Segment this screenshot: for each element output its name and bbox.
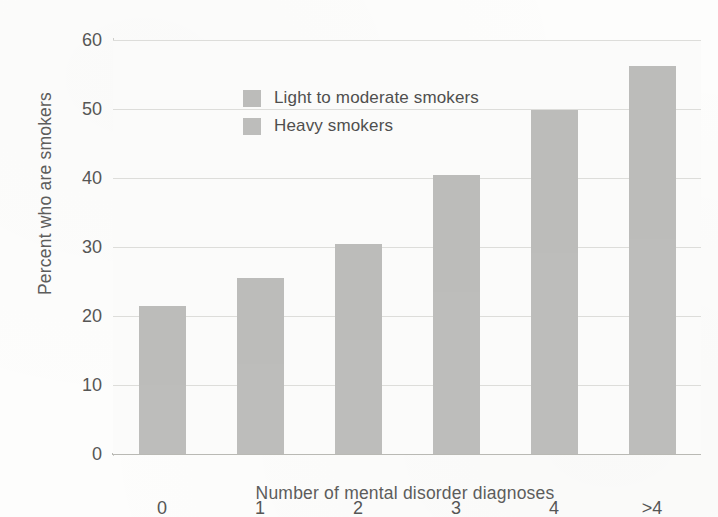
x-axis-tick-label: 2 [353,498,363,517]
bar-segment-heavy-smokers [139,385,186,454]
bar-chart-figure: Percent who are smokers Number of mental… [0,0,718,517]
bar-segment-heavy-smokers [629,239,676,454]
y-axis-tick-label: 30 [82,237,113,258]
legend: Light to moderate smokers Heavy smokers [243,88,479,136]
bar-segment-heavy-smokers [531,253,578,454]
x-axis-tick-label: >4 [642,498,663,517]
bar-stack [433,175,480,454]
x-axis-tick-label: 1 [255,498,265,517]
bar-segment-light-to-moderate-smokers [237,278,284,364]
y-axis-tick-label: 40 [82,168,113,189]
y-axis-tick-label: 60 [82,30,113,51]
y-axis-tick-label: 0 [92,444,113,465]
x-axis-title: Number of mental disorder diagnoses [100,483,710,504]
y-axis-tick-label: 20 [82,306,113,327]
bar-segment-heavy-smokers [237,364,284,454]
plot-area: 0102030405060 01234>4 Light to moderate … [113,40,701,454]
y-axis-tick-label: 10 [82,375,113,396]
gridline [113,316,701,317]
gridline [113,385,701,386]
legend-item-heavy-smokers: Heavy smokers [243,116,479,136]
legend-item-light-to-moderate-smokers: Light to moderate smokers [243,88,479,108]
legend-swatch-icon [243,90,261,107]
legend-swatch-icon [243,118,261,135]
bar-segment-light-to-moderate-smokers [531,110,578,252]
bar-stack [335,244,382,454]
bar-stack [531,110,578,454]
bar-segment-light-to-moderate-smokers [335,244,382,341]
y-axis-title: Percent who are smokers [35,4,56,384]
gridline [113,40,701,41]
x-axis-tick-label: 4 [549,498,559,517]
gridline [113,178,701,179]
bar-segment-heavy-smokers [433,292,480,454]
legend-item-label: Light to moderate smokers [274,88,479,108]
bar-segment-heavy-smokers [335,340,382,454]
bar-segment-light-to-moderate-smokers [139,306,186,385]
legend-item-label: Heavy smokers [274,116,393,136]
bar-segment-light-to-moderate-smokers [629,66,676,239]
bar-stack [629,66,676,454]
y-axis-tick-label: 50 [82,99,113,120]
bar-segment-light-to-moderate-smokers [433,175,480,292]
bar-stack [139,306,186,454]
x-axis-tick-label: 3 [451,498,461,517]
x-axis-tick-label: 0 [157,498,167,517]
gridline [113,247,701,248]
bar-stack [237,278,284,454]
